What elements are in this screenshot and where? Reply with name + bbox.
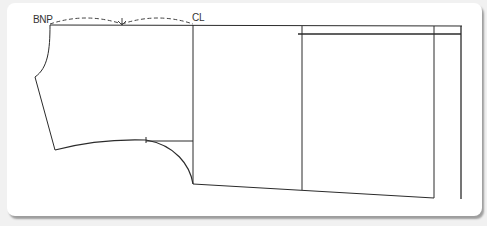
cl-label: CL bbox=[192, 13, 204, 23]
neckline-curve bbox=[35, 25, 50, 77]
dashed-arc-left bbox=[50, 18, 122, 24]
armhole-curve bbox=[55, 140, 193, 184]
dashed-arc-right bbox=[122, 18, 193, 24]
top-line bbox=[50, 25, 462, 26]
side-line bbox=[35, 77, 55, 150]
pattern-draft bbox=[0, 0, 487, 226]
hem-line bbox=[193, 184, 434, 198]
bnp-label: BNP bbox=[33, 15, 53, 25]
